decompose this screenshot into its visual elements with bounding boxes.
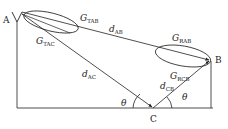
beam-ellipse-rab xyxy=(154,41,213,70)
angle-arc-right xyxy=(167,97,172,108)
beam-ellipse-tab xyxy=(22,6,81,37)
node-label-c: C xyxy=(150,114,157,124)
node-label-a: A xyxy=(2,15,10,25)
label-g-tac: GTAC xyxy=(36,36,55,47)
antenna-a-icon xyxy=(12,12,22,22)
path-ac xyxy=(22,14,152,107)
label-g-rab: GRAB xyxy=(172,33,191,44)
node-label-b: B xyxy=(215,55,222,65)
label-d-ac: dAC xyxy=(82,69,96,80)
angle-theta-left: θ xyxy=(121,98,127,108)
path-ab xyxy=(22,12,209,60)
label-g-rcb: GRCB xyxy=(170,71,190,82)
label-g-tab: GTAB xyxy=(80,13,99,24)
label-d-cb: dCB xyxy=(160,81,174,92)
radar-geometry-diagram: A B C GTAB GTAC GRAB GRCB dAB dAC dCB θ … xyxy=(0,0,228,129)
label-d-ab: dAB xyxy=(109,24,123,35)
angle-theta-right: θ xyxy=(182,92,188,102)
